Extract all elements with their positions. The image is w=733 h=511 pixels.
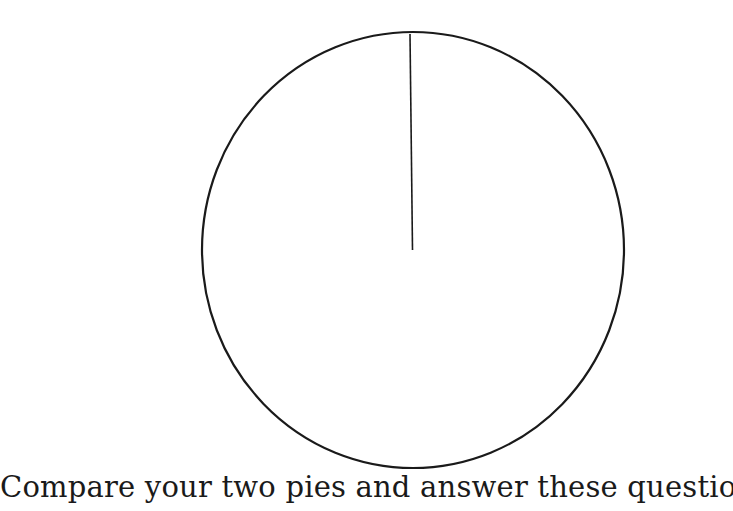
worksheet-prompt: Compare your two pies and answer these q…: [0, 470, 733, 504]
pie-outline-svg: [0, 0, 733, 480]
blank-pie-chart: [0, 0, 733, 480]
pie-circle-outline: [202, 32, 624, 468]
